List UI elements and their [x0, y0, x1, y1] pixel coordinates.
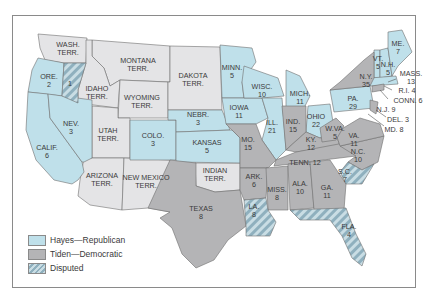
leader-ri: [384, 86, 392, 90]
legend-label: Hayes—Republican: [50, 235, 125, 245]
label-ore-disputed: 1: [68, 79, 72, 88]
label-conn: CONN. 6: [393, 96, 422, 105]
label-nj: N.J. 9: [377, 105, 396, 114]
label-ny: N.Y.35: [359, 72, 372, 89]
label-pa: PA.29: [347, 94, 358, 111]
label-tenn: TENN. 12: [289, 158, 321, 167]
legend-label: Disputed: [50, 263, 84, 273]
democratic-swatch-icon: [28, 249, 46, 260]
disputed-swatch-icon: [28, 263, 46, 274]
label-utah: UTAHTERR.: [97, 126, 119, 143]
label-ri: R.I. 4: [398, 86, 415, 95]
label-idaho: IDAHOTERR.: [86, 84, 109, 101]
leader-conn: [380, 90, 388, 99]
label-md: MD. 8: [384, 125, 403, 134]
legend-item-disputed: Disputed: [28, 261, 125, 275]
map-legend: Hayes—Republican Tiden—Democratic Disput…: [28, 233, 125, 275]
region-fla[interactable]: [290, 208, 366, 266]
label-mass: MASS.13: [400, 69, 422, 86]
label-ky: KY.12: [306, 135, 317, 152]
legend-label: Tiden—Democratic: [50, 249, 122, 259]
label-del: DEL. 3: [387, 115, 409, 124]
label-wash: WASH.TERR.: [56, 40, 79, 57]
label-indian: INDIANTERR.: [203, 166, 227, 183]
legend-item-democratic: Tiden—Democratic: [28, 247, 125, 261]
republican-swatch-icon: [28, 235, 46, 246]
legend-item-republican: Hayes—Republican: [28, 233, 125, 247]
label-dakota: DAKOTATERR.: [178, 71, 207, 88]
